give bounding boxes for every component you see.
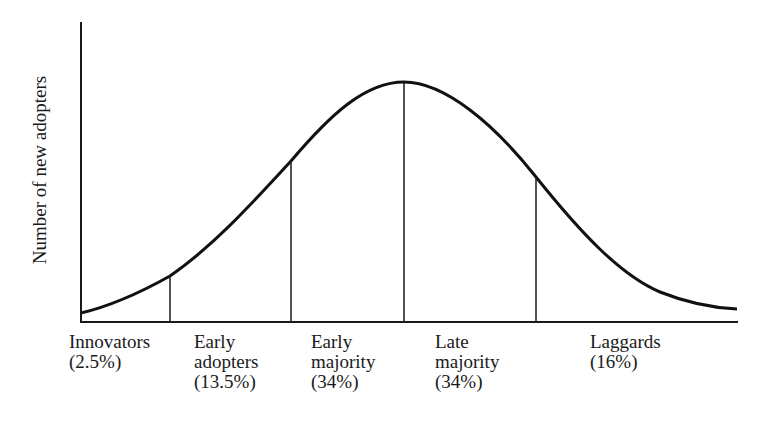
category-label: majority [311, 352, 375, 372]
category-label: Innovators [69, 332, 150, 352]
y-axis-label-text: Number of new adopters [29, 76, 51, 264]
category-innovators: Innovators (2.5%) [69, 332, 150, 372]
category-early-majority: Early majority (34%) [311, 332, 375, 392]
category-label: Late [435, 332, 499, 352]
category-percent: (34%) [435, 372, 499, 392]
category-percent: (13.5%) [194, 372, 258, 392]
category-late-majority: Late majority (34%) [435, 332, 499, 392]
category-laggards: Laggards (16%) [590, 332, 661, 372]
bell-curve [81, 82, 737, 313]
category-percent: (2.5%) [69, 352, 150, 372]
category-label: Early [194, 332, 258, 352]
category-label: majority [435, 352, 499, 372]
category-early-adopters: Early adopters (13.5%) [194, 332, 258, 392]
category-percent: (34%) [311, 372, 375, 392]
category-label: Laggards [590, 332, 661, 352]
category-label: adopters [194, 352, 258, 372]
category-percent: (16%) [590, 352, 661, 372]
category-label: Early [311, 332, 375, 352]
